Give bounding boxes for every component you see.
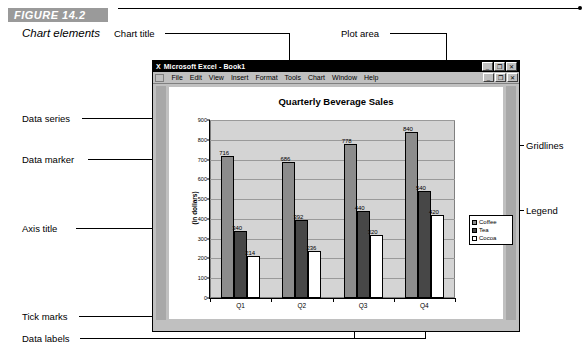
category-axis-label: Q4: [394, 302, 455, 309]
legend-swatch: [472, 236, 477, 241]
leader-chart-title-h: [165, 33, 289, 34]
value-axis-tick-label: 200: [198, 255, 207, 261]
menu-item-view[interactable]: View: [205, 74, 227, 81]
figure-number: FIGURE 14.2: [8, 8, 108, 21]
chart-sheet[interactable]: Quarterly Beverage Sales (in dollars) 01…: [168, 86, 504, 320]
bar-group: 778440320: [333, 120, 394, 298]
legend-label: Cocoa: [479, 235, 496, 241]
callout-legend: Legend: [526, 205, 558, 216]
window-body: Quarterly Beverage Sales (in dollars) 01…: [154, 84, 518, 330]
window-title: Microsoft Excel - Book1: [161, 63, 246, 70]
data-label: 778: [342, 138, 352, 144]
value-axis-tick-label: 900: [198, 117, 207, 123]
data-marker[interactable]: 320: [370, 235, 383, 298]
leader-plot-area-h: [390, 33, 447, 34]
category-axis-tick-mark: [455, 298, 456, 302]
close-icon[interactable]: ✕: [506, 62, 517, 71]
value-axis-tick-label: 600: [198, 176, 207, 182]
callout-gridlines: Gridlines: [526, 140, 564, 151]
category-axis-label: Q2: [271, 302, 332, 309]
restore-icon[interactable]: ❐: [494, 62, 505, 71]
data-label: 214: [245, 250, 255, 256]
data-marker[interactable]: 540: [418, 191, 431, 298]
data-label: 686: [280, 156, 290, 162]
right-margin-band: [506, 86, 516, 320]
value-axis-tick-label: 300: [198, 236, 207, 242]
callout-plot-area: Plot area: [341, 28, 379, 39]
legend-label: Tea: [479, 227, 489, 233]
data-marker[interactable]: 236: [308, 251, 321, 298]
minimize-icon[interactable]: _: [482, 62, 493, 71]
callout-tick-marks: Tick marks: [22, 311, 68, 322]
bar-group: 686392236: [271, 120, 332, 298]
legend-entry[interactable]: Tea: [472, 226, 510, 234]
doc-close-icon[interactable]: ✕: [507, 73, 518, 82]
legend-entry[interactable]: Cocoa: [472, 234, 510, 242]
category-axis-label: Q1: [210, 302, 271, 309]
window-titlebar[interactable]: X Microsoft Excel - Book1 _ ❐ ✕: [153, 61, 519, 72]
data-marker[interactable]: 420: [431, 215, 444, 298]
data-marker[interactable]: 392: [295, 220, 308, 298]
bar-group: 840540420: [394, 120, 455, 298]
data-label: 340: [232, 225, 242, 231]
callout-chart-title: Chart title: [114, 28, 155, 39]
legend[interactable]: CoffeeTeaCocoa: [469, 215, 513, 245]
menu-item-edit[interactable]: Edit: [186, 74, 205, 81]
left-margin-band: [156, 86, 166, 320]
data-marker[interactable]: 340: [234, 231, 247, 298]
menu-item-tools[interactable]: Tools: [281, 74, 304, 81]
legend-swatch: [472, 228, 477, 233]
category-axis-label: Q3: [333, 302, 394, 309]
value-axis-tick-label: 700: [198, 157, 207, 163]
data-marker[interactable]: 840: [405, 132, 418, 298]
legend-entry[interactable]: Coffee: [472, 218, 510, 226]
plot-area[interactable]: 0100200300400500600700800900 71634021468…: [210, 120, 455, 298]
value-axis-tick-label: 800: [198, 137, 207, 143]
bar-group: 716340214: [210, 120, 271, 298]
data-label: 540: [416, 185, 426, 191]
menu-item-chart[interactable]: Chart: [304, 74, 328, 81]
value-axis-tick-label: 500: [198, 196, 207, 202]
menu-item-file[interactable]: File: [168, 74, 186, 81]
menu-item-insert[interactable]: Insert: [227, 74, 252, 81]
figure-header-dot: [578, 6, 582, 10]
leader-data-labels-h: [80, 338, 426, 339]
chart-title[interactable]: Quarterly Beverage Sales: [169, 96, 503, 107]
window-controls[interactable]: _ ❐ ✕: [482, 62, 518, 71]
data-label: 716: [219, 150, 229, 156]
doc-minimize-icon[interactable]: _: [483, 73, 494, 82]
figure-number-bar: FIGURE 14.2: [8, 8, 108, 22]
callout-axis-title: Axis title: [22, 223, 57, 234]
figure-caption: Chart elements: [22, 27, 100, 39]
legend-swatch: [472, 220, 477, 225]
data-label: 236: [306, 245, 316, 251]
menu-item-format[interactable]: Format: [252, 74, 281, 81]
value-axis-tick-label: 100: [198, 275, 207, 281]
figure-header-rule: [118, 8, 580, 9]
callout-data-labels: Data labels: [22, 333, 70, 344]
data-marker[interactable]: 686: [282, 162, 295, 298]
excel-window[interactable]: X Microsoft Excel - Book1 _ ❐ ✕ File Edi…: [152, 60, 520, 332]
data-marker[interactable]: 214: [247, 256, 260, 298]
callout-data-series: Data series: [22, 113, 70, 124]
data-label: 440: [355, 205, 365, 211]
excel-app-icon: X: [154, 63, 161, 70]
data-marker[interactable]: 440: [357, 211, 370, 298]
callout-data-marker: Data marker: [22, 154, 74, 165]
menu-item-window[interactable]: Window: [329, 74, 361, 81]
workbook-icon[interactable]: [155, 74, 164, 82]
document-window-controls[interactable]: _ ❐ ✕: [483, 73, 519, 82]
data-label: 392: [293, 214, 303, 220]
data-label: 420: [429, 209, 439, 215]
category-axis-labels: Q1Q2Q3Q4: [210, 302, 455, 309]
menu-bar[interactable]: File Edit View Insert Format Tools Chart…: [153, 72, 519, 84]
data-label: 840: [403, 126, 413, 132]
data-series-group[interactable]: 716340214686392236778440320840540420: [210, 120, 455, 298]
data-label: 320: [368, 229, 378, 235]
data-marker[interactable]: 778: [344, 144, 357, 298]
menu-item-help[interactable]: Help: [360, 74, 381, 81]
value-axis-tick-label: 400: [198, 216, 207, 222]
doc-restore-icon[interactable]: ❐: [495, 73, 506, 82]
legend-label: Coffee: [479, 219, 497, 225]
